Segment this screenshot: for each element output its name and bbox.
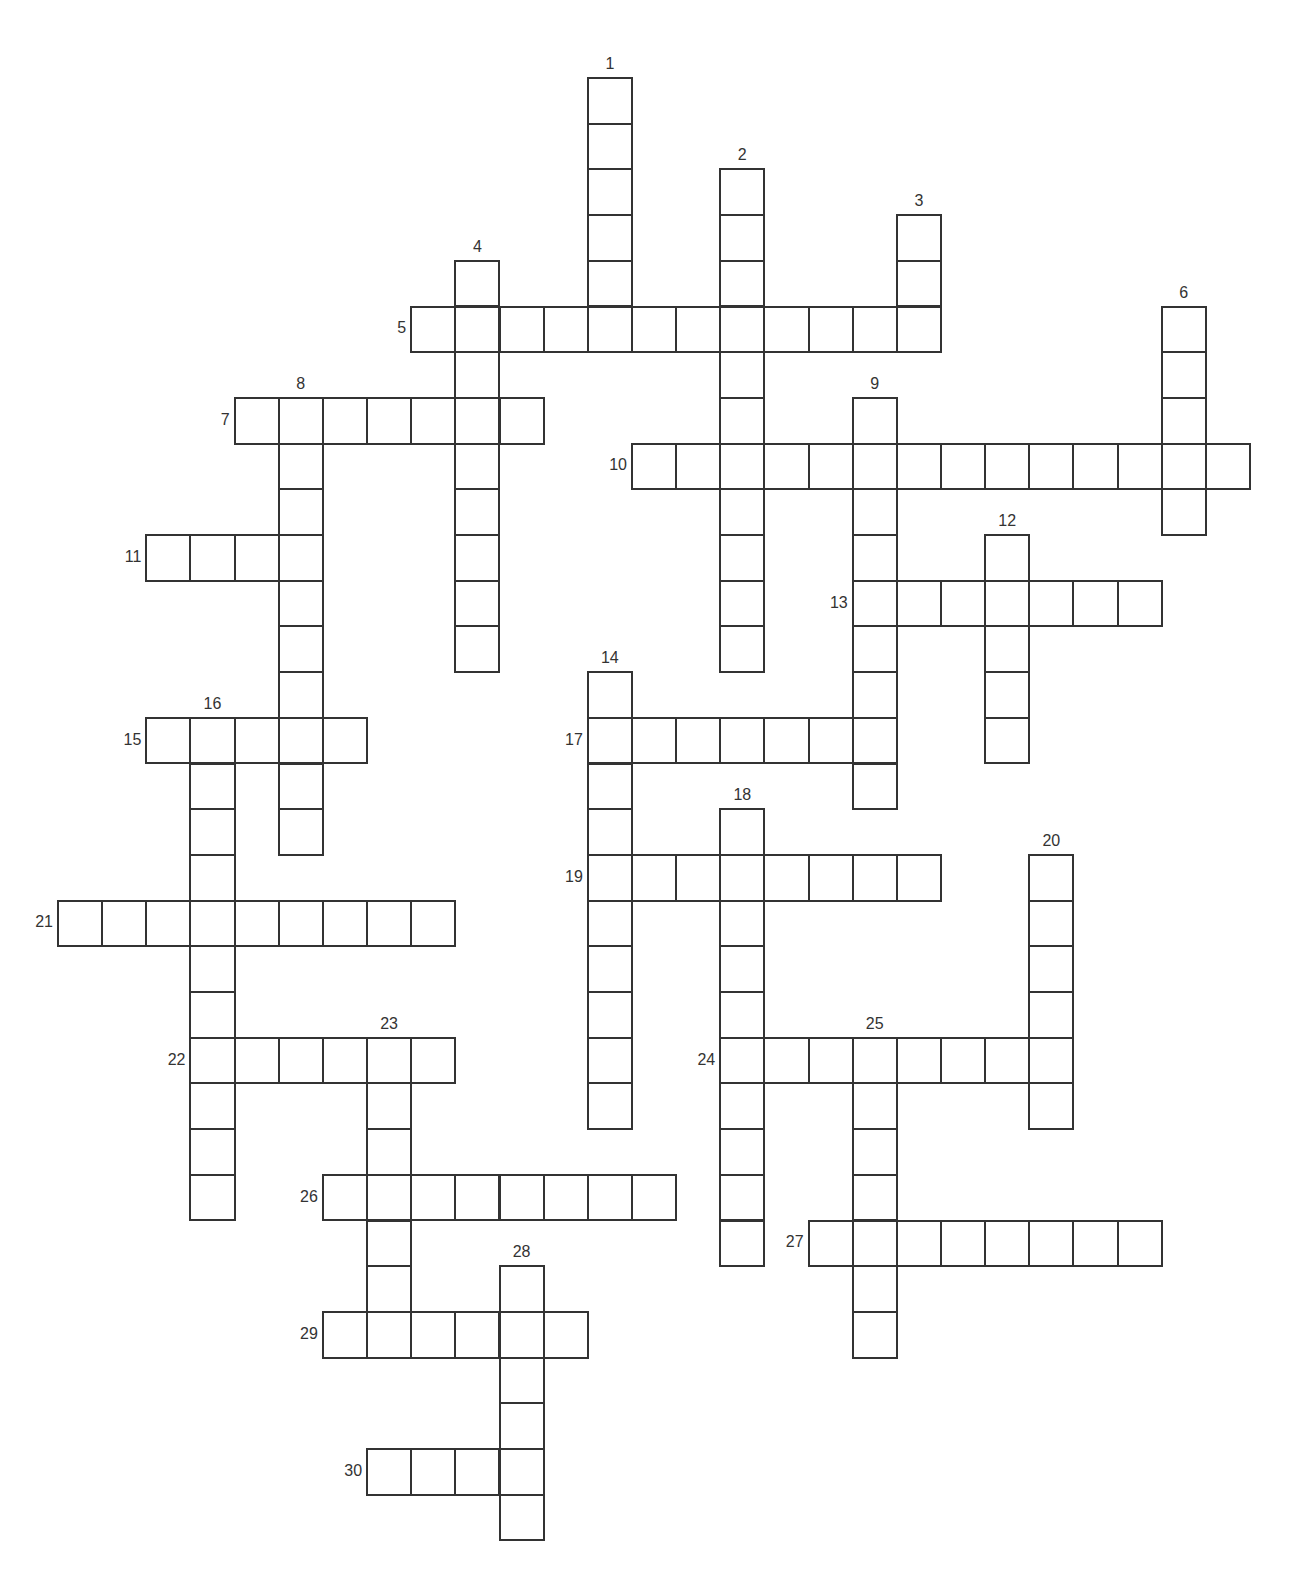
- crossword-cell[interactable]: [631, 443, 677, 491]
- crossword-cell[interactable]: [189, 1174, 235, 1222]
- crossword-cell[interactable]: [808, 717, 854, 765]
- crossword-cell[interactable]: [719, 397, 765, 445]
- crossword-cell[interactable]: [1205, 443, 1251, 491]
- crossword-cell[interactable]: [763, 443, 809, 491]
- crossword-cell[interactable]: [278, 763, 324, 811]
- crossword-cell[interactable]: [454, 488, 500, 536]
- crossword-cell[interactable]: [189, 808, 235, 856]
- crossword-cell[interactable]: [145, 534, 191, 582]
- crossword-cell[interactable]: [278, 397, 324, 445]
- crossword-cell[interactable]: [808, 443, 854, 491]
- crossword-cell[interactable]: [1028, 945, 1074, 993]
- crossword-cell[interactable]: [189, 717, 235, 765]
- crossword-cell[interactable]: [940, 1220, 986, 1268]
- crossword-cell[interactable]: [631, 1174, 677, 1222]
- crossword-cell[interactable]: [719, 580, 765, 628]
- crossword-cell[interactable]: [322, 397, 368, 445]
- crossword-cell[interactable]: [410, 1311, 456, 1359]
- crossword-cell[interactable]: [719, 717, 765, 765]
- crossword-cell[interactable]: [719, 991, 765, 1039]
- crossword-cell[interactable]: [1117, 1220, 1163, 1268]
- crossword-cell[interactable]: [896, 214, 942, 262]
- crossword-cell[interactable]: [189, 945, 235, 993]
- crossword-cell[interactable]: [189, 1128, 235, 1176]
- crossword-cell[interactable]: [719, 1128, 765, 1176]
- crossword-cell[interactable]: [940, 1037, 986, 1085]
- crossword-cell[interactable]: [1028, 443, 1074, 491]
- crossword-cell[interactable]: [719, 900, 765, 948]
- crossword-cell[interactable]: [587, 991, 633, 1039]
- crossword-cell[interactable]: [145, 900, 191, 948]
- crossword-cell[interactable]: [587, 945, 633, 993]
- crossword-cell[interactable]: [984, 1220, 1030, 1268]
- crossword-cell[interactable]: [984, 534, 1030, 582]
- crossword-cell[interactable]: [454, 351, 500, 399]
- crossword-cell[interactable]: [719, 260, 765, 308]
- crossword-cell[interactable]: [189, 900, 235, 948]
- crossword-cell[interactable]: [278, 443, 324, 491]
- crossword-cell[interactable]: [675, 306, 721, 354]
- crossword-cell[interactable]: [940, 580, 986, 628]
- crossword-cell[interactable]: [543, 1311, 589, 1359]
- crossword-cell[interactable]: [587, 854, 633, 902]
- crossword-cell[interactable]: [719, 1220, 765, 1268]
- crossword-cell[interactable]: [543, 306, 589, 354]
- crossword-cell[interactable]: [366, 1082, 412, 1130]
- crossword-cell[interactable]: [984, 717, 1030, 765]
- crossword-cell[interactable]: [366, 1174, 412, 1222]
- crossword-cell[interactable]: [587, 77, 633, 125]
- crossword-cell[interactable]: [101, 900, 147, 948]
- crossword-cell[interactable]: [189, 854, 235, 902]
- crossword-cell[interactable]: [1072, 580, 1118, 628]
- crossword-cell[interactable]: [675, 854, 721, 902]
- crossword-cell[interactable]: [454, 1311, 500, 1359]
- crossword-cell[interactable]: [1161, 306, 1207, 354]
- crossword-cell[interactable]: [587, 168, 633, 216]
- crossword-cell[interactable]: [852, 488, 898, 536]
- crossword-cell[interactable]: [410, 1448, 456, 1496]
- crossword-cell[interactable]: [852, 580, 898, 628]
- crossword-cell[interactable]: [852, 306, 898, 354]
- crossword-cell[interactable]: [234, 534, 280, 582]
- crossword-cell[interactable]: [808, 854, 854, 902]
- crossword-cell[interactable]: [984, 671, 1030, 719]
- crossword-cell[interactable]: [499, 1265, 545, 1313]
- crossword-cell[interactable]: [808, 306, 854, 354]
- crossword-cell[interactable]: [189, 1037, 235, 1085]
- crossword-cell[interactable]: [852, 854, 898, 902]
- crossword-cell[interactable]: [454, 534, 500, 582]
- crossword-cell[interactable]: [454, 443, 500, 491]
- crossword-cell[interactable]: [675, 717, 721, 765]
- crossword-cell[interactable]: [278, 808, 324, 856]
- crossword-cell[interactable]: [322, 1311, 368, 1359]
- crossword-cell[interactable]: [719, 306, 765, 354]
- crossword-cell[interactable]: [454, 1174, 500, 1222]
- crossword-cell[interactable]: [587, 260, 633, 308]
- crossword-cell[interactable]: [587, 717, 633, 765]
- crossword-cell[interactable]: [852, 763, 898, 811]
- crossword-cell[interactable]: [366, 1448, 412, 1496]
- crossword-cell[interactable]: [189, 991, 235, 1039]
- crossword-cell[interactable]: [278, 488, 324, 536]
- crossword-cell[interactable]: [278, 580, 324, 628]
- crossword-cell[interactable]: [631, 717, 677, 765]
- crossword-cell[interactable]: [984, 1037, 1030, 1085]
- crossword-cell[interactable]: [719, 625, 765, 673]
- crossword-cell[interactable]: [1161, 443, 1207, 491]
- crossword-cell[interactable]: [57, 900, 103, 948]
- crossword-cell[interactable]: [940, 443, 986, 491]
- crossword-cell[interactable]: [366, 900, 412, 948]
- crossword-cell[interactable]: [499, 306, 545, 354]
- crossword-cell[interactable]: [278, 1037, 324, 1085]
- crossword-cell[interactable]: [454, 625, 500, 673]
- crossword-cell[interactable]: [1072, 1220, 1118, 1268]
- crossword-cell[interactable]: [808, 1220, 854, 1268]
- crossword-cell[interactable]: [499, 1448, 545, 1496]
- crossword-cell[interactable]: [366, 1128, 412, 1176]
- crossword-cell[interactable]: [719, 168, 765, 216]
- crossword-cell[interactable]: [1028, 991, 1074, 1039]
- crossword-cell[interactable]: [719, 214, 765, 262]
- crossword-cell[interactable]: [410, 397, 456, 445]
- crossword-cell[interactable]: [896, 1037, 942, 1085]
- crossword-cell[interactable]: [587, 1174, 633, 1222]
